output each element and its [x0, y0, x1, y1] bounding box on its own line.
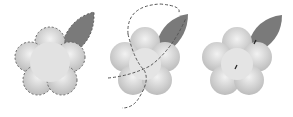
flower-illustration	[0, 0, 293, 117]
panel-path	[108, 4, 188, 108]
illustration-canvas	[0, 0, 293, 117]
panel-selection	[15, 12, 94, 95]
panel-final	[202, 15, 282, 95]
